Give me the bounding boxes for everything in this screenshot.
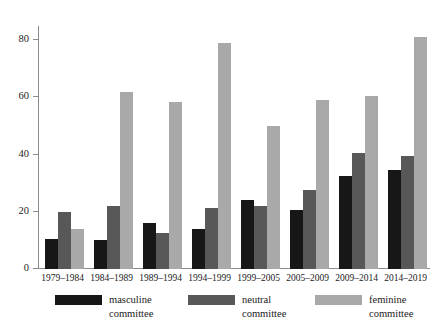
y-tick-label: 80 [19,32,30,45]
bar [339,176,352,269]
legend-label: femininecommittee [369,293,413,320]
y-tick-label: 20 [19,204,30,217]
y-tick-label: 0 [24,261,29,274]
bar [205,208,218,269]
x-axis-label: 1984–1989 [87,272,136,285]
legend-swatch-feminine [315,295,362,305]
chart-legend: masculinecommitteeneutralcommitteefemini… [55,293,415,323]
bar-group [192,26,231,269]
plot-area: 020406080 [38,26,430,269]
legend-label-line2: committee [369,307,413,321]
bars-layer [38,26,430,269]
bar [143,223,156,269]
bar [365,96,378,269]
legend-label-line1: masculine [109,294,152,305]
bar-group [339,26,378,269]
legend-item[interactable]: neutralcommittee [188,293,286,320]
bar [94,240,107,269]
legend-label-line1: feminine [369,294,406,305]
x-axis-label: 2005–2009 [283,272,332,285]
legend-label-line2: committee [109,307,153,321]
bar [58,212,71,269]
legend-label-line1: neutral [242,294,271,305]
bar [254,206,267,269]
bar-group [388,26,427,269]
grouped-bar-chart: 020406080 1979–19841984–19891989–1994199… [0,0,435,327]
bar [401,156,414,269]
y-tick-label: 40 [19,147,30,160]
bar-group [143,26,182,269]
legend-swatch-masculine [55,295,102,305]
bar [388,170,401,269]
legend-item[interactable]: masculinecommittee [55,293,153,320]
x-axis-label: 1979–1984 [38,272,87,285]
legend-swatch-neutral [188,295,235,305]
bar [303,190,316,269]
bar [120,92,133,269]
x-axis-label: 2009–2014 [332,272,381,285]
x-axis-label: 1994–1999 [185,272,234,285]
bar [192,229,205,269]
bar [267,126,280,269]
bar [352,153,365,269]
bar [169,102,182,269]
y-tick-label: 60 [19,89,30,102]
bar-group [45,26,84,269]
x-axis-label: 1989–1994 [136,272,185,285]
bar [45,239,58,269]
bar [290,210,303,269]
bar [414,37,427,269]
x-axis-label: 1999–2005 [234,272,283,285]
legend-item[interactable]: femininecommittee [315,293,413,320]
legend-label: neutralcommittee [242,293,286,320]
bar [107,206,120,269]
bar [71,229,84,269]
bar [241,200,254,269]
bar [156,233,169,269]
bar [316,100,329,269]
bar-group [290,26,329,269]
legend-label-line2: committee [242,307,286,321]
bar-group [94,26,133,269]
bar [218,43,231,269]
x-axis-labels: 1979–19841984–19891989–19941994–19991999… [38,272,430,286]
bar-group [241,26,280,269]
legend-label: masculinecommittee [109,293,153,320]
x-axis-label: 2014–2019 [381,272,430,285]
